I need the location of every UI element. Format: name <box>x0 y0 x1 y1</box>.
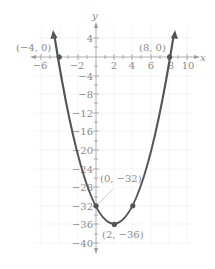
x-tick-label: 2 <box>111 60 117 71</box>
curve-left-arrow-icon <box>51 30 58 39</box>
y-tick-label: −32 <box>72 201 93 212</box>
label-root-left: (−4, 0) <box>16 42 51 53</box>
point-root-left <box>57 54 62 59</box>
y-tick-label: −40 <box>72 238 93 249</box>
curve-right-arrow-icon <box>171 30 178 39</box>
leader-line <box>97 189 113 205</box>
label-root-right: (8, 0) <box>139 42 166 53</box>
y-axis-up-arrow-icon <box>94 22 98 28</box>
point-root-right <box>167 54 172 59</box>
x-tick-label: −2 <box>70 60 85 71</box>
y-axis-down-arrow-icon <box>94 248 98 254</box>
parabola-graph: x y −6 −2 2 4 6 8 10 4 −4 −8 −12 −16 −20… <box>0 0 215 269</box>
point-y-intercept <box>93 203 98 208</box>
x-axis-label: x <box>200 52 206 63</box>
x-tick-label: 10 <box>182 60 195 71</box>
x-tick-label: −6 <box>33 60 48 71</box>
y-tick-label: −36 <box>72 219 93 230</box>
y-tick-label: −16 <box>72 126 93 137</box>
y-axis-label: y <box>91 10 98 21</box>
x-tick-label: 4 <box>129 60 135 71</box>
y-tick-label: −4 <box>78 71 93 82</box>
point-symmetric <box>130 203 135 208</box>
x-tick-label: 6 <box>148 60 154 71</box>
x-axis-left-arrow-icon <box>30 55 36 59</box>
label-y-intercept: (0, −32) <box>100 173 142 184</box>
y-tick-label: −12 <box>72 108 93 119</box>
label-vertex: (2, −36) <box>102 229 144 240</box>
y-tick-label: −8 <box>78 89 93 100</box>
point-vertex <box>112 222 117 227</box>
y-tick-label: 4 <box>87 33 93 44</box>
